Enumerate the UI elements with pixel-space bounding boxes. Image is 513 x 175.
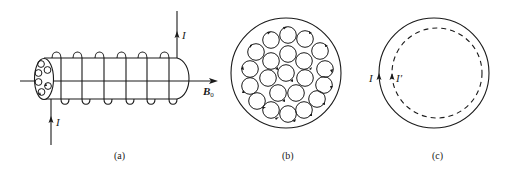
caption-a: (a) — [114, 150, 125, 162]
figure-canvas: I I B0 (a) — [0, 0, 513, 175]
panel-a: I I B0 (a) — [20, 11, 218, 162]
panel-c: I I′ (c) — [368, 18, 489, 162]
solenoid-coil — [52, 52, 177, 104]
caption-c: (c) — [432, 150, 443, 162]
label-current-top: I — [181, 29, 187, 41]
label-current-bottom: I — [55, 116, 61, 128]
label-field-b0: B0 — [202, 85, 214, 99]
label-current-inner: I′ — [395, 72, 403, 84]
caption-b: (b) — [282, 150, 294, 162]
cylinder-right-cap — [177, 58, 189, 99]
molecular-current-loops — [241, 27, 333, 123]
cross-section-outer-circle — [231, 18, 341, 128]
label-current-outer: I — [368, 72, 374, 84]
panel-b: (b) — [231, 18, 341, 162]
equivalent-current-dashed-circle — [392, 28, 482, 118]
